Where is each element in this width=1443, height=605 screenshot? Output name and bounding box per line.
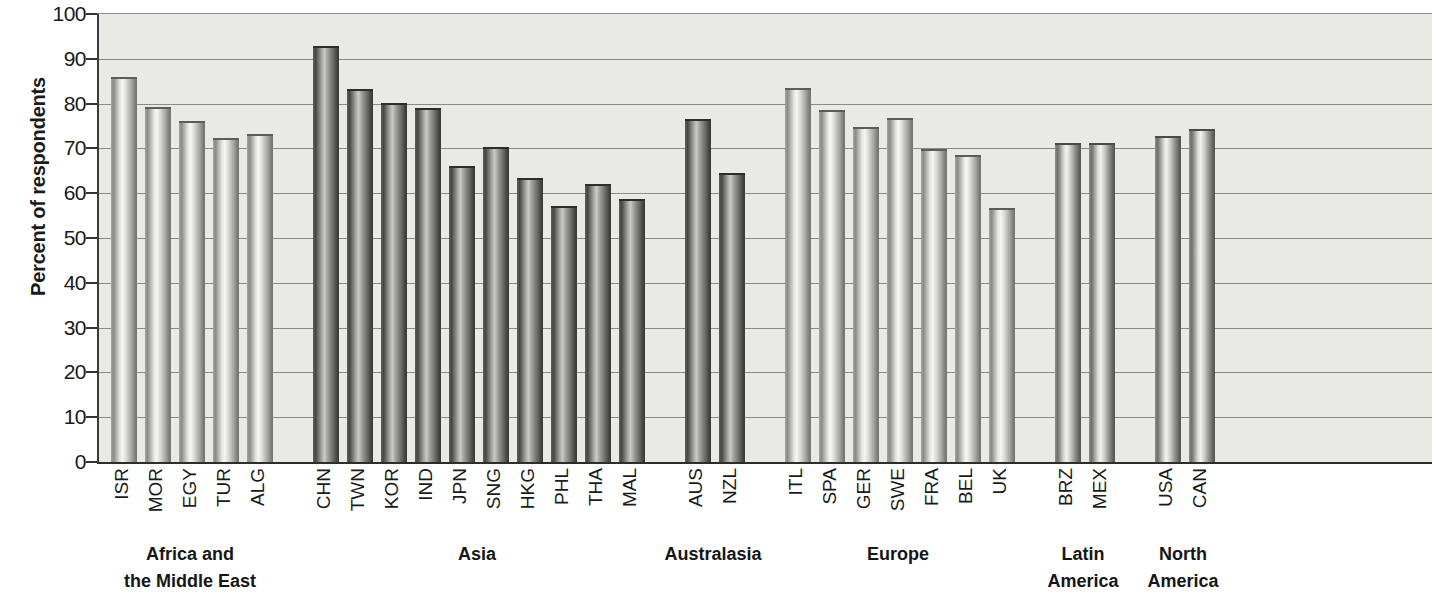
bar — [449, 166, 475, 462]
x-axis-tick-label-text: BEL — [955, 468, 977, 504]
bar — [247, 134, 273, 462]
y-axis-tick-label: 40 — [30, 271, 86, 295]
plot-area — [97, 14, 1432, 462]
group-label: Africa andthe Middle East — [80, 541, 300, 595]
y-axis-tick-mark — [86, 58, 97, 60]
bar — [921, 149, 947, 462]
x-axis-tick-label: SWE — [885, 466, 911, 532]
y-axis-tick-mark — [86, 282, 97, 284]
x-axis-tick-label: JPN — [447, 466, 473, 532]
x-axis-tick-label: ALG — [245, 466, 271, 532]
group-label-line1: North — [1159, 544, 1207, 564]
x-axis-tick-label-text: MEX — [1089, 468, 1111, 509]
bar-chart: Percent of respondents 10090807060504030… — [0, 0, 1443, 605]
y-axis-tick-label: 100 — [30, 2, 86, 26]
y-axis-tick-label: 30 — [30, 316, 86, 340]
bar — [1189, 129, 1215, 462]
x-axis-tick-label-text: ISR — [111, 468, 133, 500]
x-axis-tick-label-text: TWN — [347, 468, 369, 511]
x-axis-tick-label-text: UK — [989, 468, 1011, 494]
x-axis-tick-label: USA — [1153, 466, 1179, 532]
x-axis-tick-label-text: THA — [585, 468, 607, 506]
x-axis-tick-label-text: CHN — [313, 468, 335, 509]
x-axis-tick-label: PHL — [549, 466, 575, 532]
x-axis-tick-label: EGY — [177, 466, 203, 532]
x-axis-tick-label-text: AUS — [685, 468, 707, 507]
y-axis-tick-label: 90 — [30, 47, 86, 71]
x-axis-tick-label-text: PHL — [551, 468, 573, 505]
x-axis-tick-label-text: CAN — [1189, 468, 1211, 508]
bar — [955, 155, 981, 462]
bar — [989, 208, 1015, 462]
bar — [517, 178, 543, 462]
x-axis-tick-label-text: BRZ — [1055, 468, 1077, 506]
bar — [313, 46, 339, 462]
x-axis-tick-label: FRA — [919, 466, 945, 532]
bar — [381, 103, 407, 462]
x-axis-tick-label: SNG — [481, 466, 507, 532]
x-axis-tick-label: MEX — [1087, 466, 1113, 532]
x-axis-tick-label-text: IND — [415, 468, 437, 501]
x-axis-tick-label-text: GER — [853, 468, 875, 509]
y-axis-tick-mark — [86, 371, 97, 373]
x-axis-tick-label-text: MOR — [145, 468, 167, 512]
x-axis-tick-label: MAL — [617, 466, 643, 532]
bar — [819, 110, 845, 462]
bar — [619, 199, 645, 462]
x-axis-tick-label: THA — [583, 466, 609, 532]
bar — [1055, 143, 1081, 462]
x-axis-tick-label: BRZ — [1053, 466, 1079, 532]
bar — [719, 173, 745, 462]
x-axis-tick-label-text: FRA — [921, 468, 943, 506]
x-axis-tick-label: NZL — [717, 466, 743, 532]
bar — [213, 138, 239, 462]
bar — [415, 108, 441, 462]
x-axis-tick-label: SPA — [817, 466, 843, 532]
group-label-line1: Africa and — [146, 544, 234, 564]
bar — [685, 119, 711, 462]
x-axis-tick-label-text: SPA — [819, 468, 841, 505]
x-axis-tick-label-text: JPN — [449, 468, 471, 504]
x-axis-tick-label: KOR — [379, 466, 405, 532]
x-axis-group-labels: Africa andthe Middle EastAsiaAustralasia… — [97, 541, 1430, 605]
bar — [551, 206, 577, 462]
x-axis-tick-label-text: ALG — [247, 468, 269, 506]
x-axis-tick-label: TUR — [211, 466, 237, 532]
x-axis-tick-label-text: KOR — [381, 468, 403, 509]
x-axis-category-labels: ISRMOREGYTURALGCHNTWNKORINDJPNSNGHKGPHLT… — [97, 466, 1430, 534]
x-axis-tick-label: CAN — [1187, 466, 1213, 532]
bar — [585, 184, 611, 462]
bar — [483, 147, 509, 462]
x-axis-tick-label-text: SWE — [887, 468, 909, 511]
bar — [179, 121, 205, 462]
x-axis-tick-label: AUS — [683, 466, 709, 532]
x-axis-tick-label: BEL — [953, 466, 979, 532]
x-axis-tick-label-text: SNG — [483, 468, 505, 509]
y-axis-tick-label: 0 — [30, 450, 86, 474]
bar — [347, 89, 373, 462]
x-axis-tick-label: ITL — [783, 466, 809, 532]
y-axis-labels: 1009080706050403020100 — [30, 0, 86, 480]
y-axis-tick-label: 20 — [30, 360, 86, 384]
bar — [1155, 136, 1181, 462]
x-axis-tick-label: CHN — [311, 466, 337, 532]
y-axis-tick-label: 10 — [30, 405, 86, 429]
y-axis-tick-mark — [86, 103, 97, 105]
bars-layer — [99, 14, 1432, 462]
bar — [1089, 143, 1115, 462]
y-axis-tick-mark — [86, 13, 97, 15]
x-axis-line — [97, 462, 1432, 464]
x-axis-tick-label-text: MAL — [619, 468, 641, 507]
y-axis-tick-mark — [86, 147, 97, 149]
x-axis-tick-label-text: NZL — [719, 468, 741, 504]
x-axis-tick-label-text: EGY — [179, 468, 201, 508]
y-axis-tick-mark — [86, 461, 97, 463]
y-axis-tick-label: 80 — [30, 92, 86, 116]
y-axis-tick-mark — [86, 416, 97, 418]
bar — [887, 118, 913, 462]
x-axis-tick-label: TWN — [345, 466, 371, 532]
bar — [785, 88, 811, 462]
y-axis-tick-mark — [86, 327, 97, 329]
y-axis-tick-label: 50 — [30, 226, 86, 250]
x-axis-tick-label: HKG — [515, 466, 541, 532]
